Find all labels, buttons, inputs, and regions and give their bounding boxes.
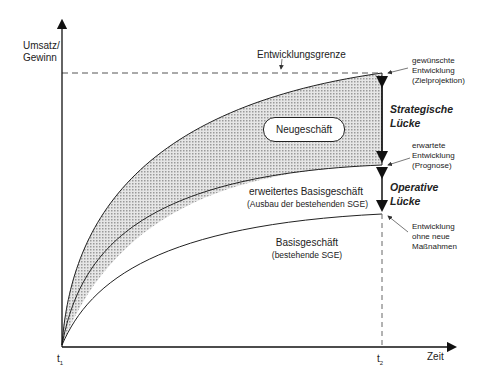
nochange-annotation: Entwicklung ohne neue Maßnahmen xyxy=(412,222,457,252)
operative-gap-line2: Lücke xyxy=(390,194,438,208)
t1-label: t1 xyxy=(57,353,63,369)
operative-gap-label: Operative Lücke xyxy=(390,180,438,208)
base-sub: (bestehende SGE) xyxy=(267,249,347,261)
expected-line2: Entwicklung xyxy=(412,151,455,161)
y-axis-label: Umsatz/ Gewinn xyxy=(23,40,60,64)
y-axis-label-line1: Umsatz/ xyxy=(23,40,60,52)
base-label: Basisgeschäft (bestehende SGE) xyxy=(267,237,347,261)
x-axis-label: Zeit xyxy=(427,351,444,363)
desired-line3: (Zielprojektion) xyxy=(412,76,465,86)
desired-annotation: gewünschte Entwicklung (Zielprojektion) xyxy=(412,56,465,86)
operative-gap-line1: Operative xyxy=(390,180,438,194)
t1-sub: 1 xyxy=(60,360,63,366)
t2-sub: 2 xyxy=(380,360,383,366)
new-business-label: Neugeschäft xyxy=(263,117,345,142)
nochange-line2: ohne neue xyxy=(412,232,457,242)
strategic-gap-label: Strategische Lücke xyxy=(390,102,453,130)
expected-line1: erwartete xyxy=(412,141,455,151)
nochange-line3: Maßnahmen xyxy=(412,242,457,252)
extended-base-label: erweitertes Basisgeschäft (Ausbau der be… xyxy=(247,186,365,210)
expected-line3: (Prognose) xyxy=(412,161,455,171)
y-axis-label-line2: Gewinn xyxy=(23,52,60,64)
desired-line1: gewünschte xyxy=(412,56,465,66)
t2-label: t2 xyxy=(377,353,383,369)
strategic-gap-line2: Lücke xyxy=(390,116,453,130)
base-title: Basisgeschäft xyxy=(267,237,347,249)
expected-annotation: erwartete Entwicklung (Prognose) xyxy=(412,141,455,171)
limit-label: Entwicklungsgrenze xyxy=(257,49,346,61)
extended-base-title: erweitertes Basisgeschäft xyxy=(247,186,365,198)
desired-line2: Entwicklung xyxy=(412,66,465,76)
strategic-gap-line1: Strategische xyxy=(390,102,453,116)
extended-base-sub: (Ausbau der bestehenden SGE) xyxy=(247,198,365,210)
nochange-line1: Entwicklung xyxy=(412,222,457,232)
